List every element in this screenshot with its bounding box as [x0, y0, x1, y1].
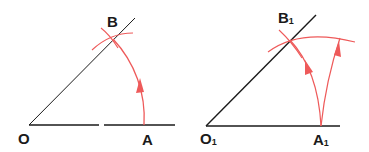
ray-line-right [206, 15, 316, 126]
cross-arc-left [92, 33, 133, 50]
label-point-b1: B1 [278, 10, 294, 26]
figure-right [206, 15, 355, 126]
label-point-b: B [107, 14, 118, 29]
label-point-a1-main: A [313, 131, 324, 148]
label-vertex-o1-sub: 1 [212, 137, 217, 147]
label-point-a1: A1 [313, 132, 329, 148]
label-point-a1-sub: 1 [324, 138, 329, 148]
label-point-b1-main: B [278, 9, 289, 26]
label-vertex-o: O [18, 131, 30, 146]
label-point-b1-sub: 1 [289, 16, 294, 26]
arrow-icon [334, 41, 341, 57]
arrow-icon [305, 60, 313, 75]
angle-construction-diagram [0, 0, 369, 152]
compass-arc-right-to-b1 [290, 40, 321, 126]
figure-left [29, 18, 175, 125]
label-vertex-o1: O1 [200, 131, 217, 147]
ray-line-left [29, 18, 135, 125]
arrow-icon [136, 78, 144, 93]
label-point-a: A [142, 132, 153, 147]
label-vertex-o1-main: O [200, 130, 212, 147]
